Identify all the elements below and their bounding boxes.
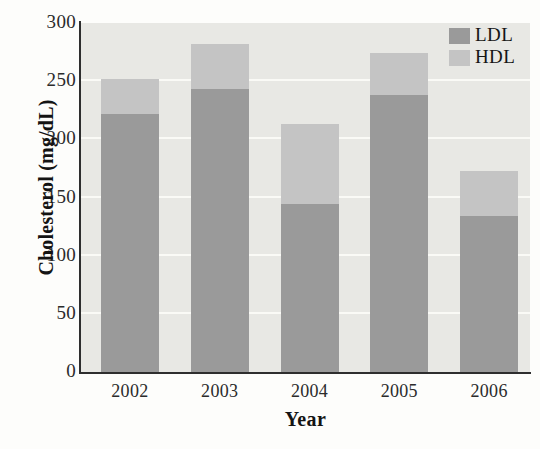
legend-label-hdl: HDL	[475, 46, 515, 68]
y-tick-label-0: 0	[4, 360, 76, 382]
x-tick-label-2002: 2002	[90, 381, 170, 402]
cholesterol-stacked-bar-chart: 050100150200250300 Cholesterol (mg/dL) Y…	[0, 0, 540, 449]
bar-2002	[101, 79, 159, 372]
legend-label-ldl: LDL	[475, 24, 513, 46]
bar-segment-ldl-2006	[460, 216, 518, 372]
bar-segment-ldl-2002	[101, 114, 159, 372]
bar-segment-hdl-2006	[460, 171, 518, 216]
bar-segment-ldl-2003	[191, 89, 249, 372]
legend-item-hdl[interactable]: HDL	[449, 48, 527, 70]
legend-swatch-ldl	[449, 28, 470, 44]
bar-segment-ldl-2004	[281, 204, 339, 372]
x-axis-line	[79, 372, 531, 374]
x-tick-label-2005: 2005	[359, 381, 439, 402]
x-axis-title: Year	[81, 408, 530, 431]
bar-segment-hdl-2005	[370, 53, 428, 95]
bars-layer	[81, 23, 530, 372]
chart-legend: LDLHDL	[449, 26, 527, 70]
x-tick-label-2003: 2003	[180, 381, 260, 402]
y-tick-label-300: 300	[4, 11, 76, 33]
bar-segment-hdl-2004	[281, 124, 339, 204]
bar-2005	[370, 53, 428, 372]
bar-segment-ldl-2005	[370, 95, 428, 372]
x-tick-label-2004: 2004	[270, 381, 350, 402]
legend-item-ldl[interactable]: LDL	[449, 26, 527, 48]
legend-swatch-hdl	[449, 50, 470, 66]
plot-area	[81, 23, 530, 372]
y-axis-line	[79, 21, 81, 374]
bar-2006	[460, 171, 518, 372]
bar-2003	[191, 44, 249, 372]
y-axis-title: Cholesterol (mg/dL)	[35, 38, 58, 338]
bar-2004	[281, 124, 339, 372]
bar-segment-hdl-2002	[101, 79, 159, 114]
x-tick-label-2006: 2006	[449, 381, 529, 402]
bar-segment-hdl-2003	[191, 44, 249, 89]
